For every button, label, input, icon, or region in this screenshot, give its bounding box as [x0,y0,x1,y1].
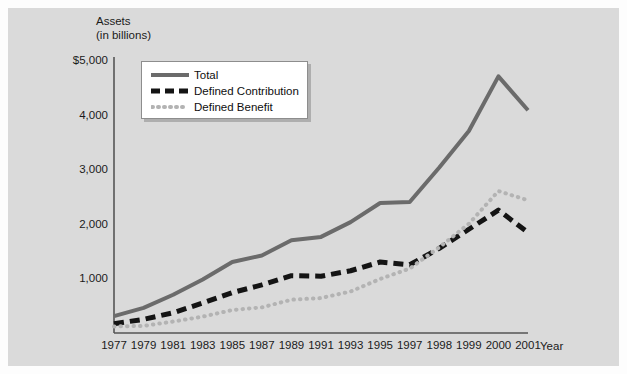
x-tick-label: 1983 [190,339,216,351]
y-axis-title: Assets (in billions) [96,14,151,42]
legend-item-defined-contribution: Defined Contribution [142,83,307,99]
x-tick-label: 1998 [426,339,452,351]
series-line-defined-benefit [114,191,528,326]
y-axis-title-line2: (in billions) [96,28,151,42]
chart-figure: Assets (in billions) Year 1,0002,0003,00… [0,0,627,374]
chart-legend: Total Defined Contribution Defined Benef… [141,61,308,119]
solid-line-swatch [150,69,190,81]
x-tick-label: 1999 [456,339,482,351]
y-tick-label: $5,000 [60,54,108,66]
y-tick-label: 2,000 [60,218,108,230]
x-tick-label: 1977 [101,339,127,351]
legend-label-defined-benefit: Defined Benefit [194,101,273,113]
x-axis-title: Year [540,339,563,353]
x-tick-label: 1989 [279,339,305,351]
x-tick-label: 2001 [515,339,541,351]
y-tick-label: 4,000 [60,109,108,121]
x-tick-label: 1987 [249,339,275,351]
dashed-line-swatch [150,85,190,97]
y-tick-label: 3,000 [60,163,108,175]
legend-label-total: Total [194,69,218,81]
y-tick-label: 1,000 [60,272,108,284]
x-tick-label: 1997 [397,339,423,351]
x-tick-label: 1985 [219,339,245,351]
legend-item-defined-benefit: Defined Benefit [142,99,307,115]
x-tick-label: 1995 [367,339,393,351]
x-tick-label: 1993 [338,339,364,351]
legend-label-defined-contribution: Defined Contribution [194,85,299,97]
y-axis-title-line1: Assets [96,14,151,28]
x-tick-label: 2000 [486,339,512,351]
x-tick-label: 1979 [131,339,157,351]
series-line-defined-contribution [114,210,528,324]
x-tick-label: 1991 [308,339,334,351]
x-tick-label: 1981 [160,339,186,351]
legend-item-total: Total [142,67,307,83]
dotted-line-swatch [150,101,190,113]
